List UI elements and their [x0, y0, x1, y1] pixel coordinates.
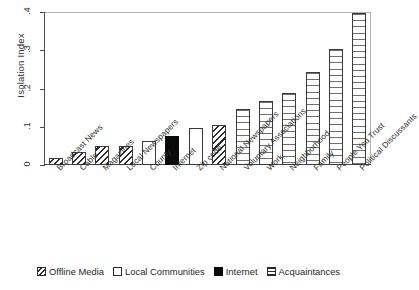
- legend-item-local-communities: Local Communities: [113, 266, 205, 277]
- y-axis-label: Isolation Index: [15, 6, 26, 126]
- legend-swatch-acquaintances: [267, 267, 276, 276]
- legend-label: Offline Media: [49, 266, 104, 277]
- legend-label: Internet: [226, 266, 258, 277]
- x-axis-tick-labels: Broadcast NewsCableMagazinesLocal Newspa…: [44, 166, 371, 246]
- chart-legend: Offline MediaLocal CommunitiesInternetAc…: [0, 266, 377, 277]
- legend-swatch-local-communities: [113, 267, 122, 276]
- legend-item-internet: Internet: [214, 266, 258, 277]
- legend-item-acquaintances: Acquaintances: [267, 266, 341, 277]
- bar-people-you-trust: [329, 49, 343, 165]
- y-tick-label: .1: [22, 115, 32, 137]
- legend-label: Local Communities: [125, 266, 205, 277]
- legend-swatch-offline-media: [37, 267, 46, 276]
- legend-item-offline-media: Offline Media: [37, 266, 104, 277]
- y-tick-label: .2: [22, 77, 32, 99]
- y-tick-label: .3: [22, 38, 32, 60]
- legend-label: Acquaintances: [279, 266, 341, 277]
- y-tick-label: .4: [22, 0, 32, 22]
- y-tick-label: 0: [22, 153, 32, 175]
- legend-swatch-internet: [214, 267, 223, 276]
